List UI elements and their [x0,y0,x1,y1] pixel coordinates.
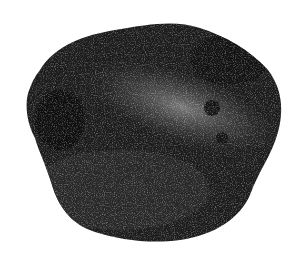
rock-image [0,0,300,261]
rock-body [0,0,300,261]
photo-scene [0,0,300,261]
